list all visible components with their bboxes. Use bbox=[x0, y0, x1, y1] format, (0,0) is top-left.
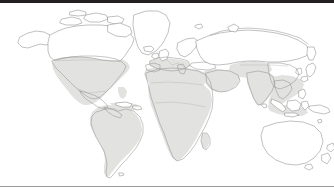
region-highlight-south-america bbox=[90, 105, 142, 177]
landmass-kamchatka bbox=[307, 47, 316, 60]
landmass-sri-lanka bbox=[262, 104, 267, 108]
landmass-arctic-island-3 bbox=[70, 10, 86, 16]
landmass-philippines bbox=[299, 89, 306, 99]
region-highlight-africa bbox=[148, 79, 212, 161]
landmass-japan bbox=[306, 63, 316, 77]
landmass-arctic-island-4 bbox=[108, 16, 124, 24]
landmass-australia bbox=[261, 121, 323, 165]
landmass-island-pacific-1 bbox=[318, 119, 322, 123]
landmass-new-zealand-north bbox=[327, 143, 334, 152]
landmass-arctic-island-2 bbox=[84, 13, 108, 22]
landmass-japan-south bbox=[301, 76, 308, 82]
world-map-svg bbox=[0, 3, 334, 186]
landmass-tasmania bbox=[305, 164, 313, 170]
region-highlight-florida bbox=[118, 87, 127, 99]
landmass-falklands bbox=[119, 173, 124, 176]
landmass-new-zealand-south bbox=[322, 153, 331, 164]
landmass-island-svalbard bbox=[195, 24, 203, 29]
landmass-new-guinea bbox=[309, 105, 330, 114]
bottom-border-line bbox=[0, 186, 334, 187]
landmass-arctic-island-1 bbox=[60, 17, 82, 25]
landmass-russia bbox=[196, 30, 310, 65]
region-highlight-north-america bbox=[52, 54, 130, 105]
world-map-figure bbox=[0, 0, 334, 187]
landmass-scandinavia bbox=[177, 38, 198, 57]
